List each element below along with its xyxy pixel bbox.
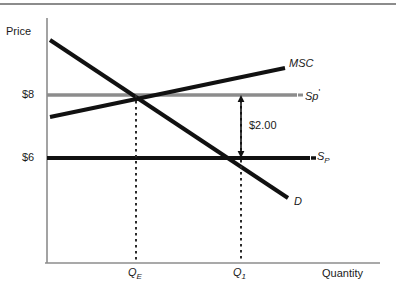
msc-curve xyxy=(50,68,285,117)
y-axis-title: Price xyxy=(6,26,31,37)
chart-canvas xyxy=(0,0,396,296)
prime-mark: ' xyxy=(318,87,320,97)
private-supply-curve-label: SP xyxy=(317,151,330,165)
demand-curve-label: D xyxy=(294,196,302,207)
chart-figure: Price Quantity $8 $6 MSC Sp' SP D $2.00 … xyxy=(0,0,396,296)
private-supply-subscript: P xyxy=(324,156,329,165)
x-tick-label-q1: Q1 xyxy=(233,267,246,281)
y-tick-label-6: $6 xyxy=(22,152,34,163)
social-supply-label-text: Sp xyxy=(305,90,318,102)
x-tick-q1-subscript: 1 xyxy=(242,272,246,281)
x-tick-q1-text: Q xyxy=(233,266,242,278)
x-axis-title: Quantity xyxy=(322,268,363,279)
x-tick-qe-text: Q xyxy=(128,266,137,278)
y-tick-label-8: $8 xyxy=(22,89,34,100)
externality-gap-arrow xyxy=(238,95,245,158)
x-tick-label-qe: QE xyxy=(128,267,142,281)
msc-curve-label: MSC xyxy=(289,58,313,69)
externality-gap-label: $2.00 xyxy=(249,120,277,131)
social-supply-curve-label: Sp' xyxy=(305,88,320,102)
x-tick-qe-subscript: E xyxy=(137,272,142,281)
